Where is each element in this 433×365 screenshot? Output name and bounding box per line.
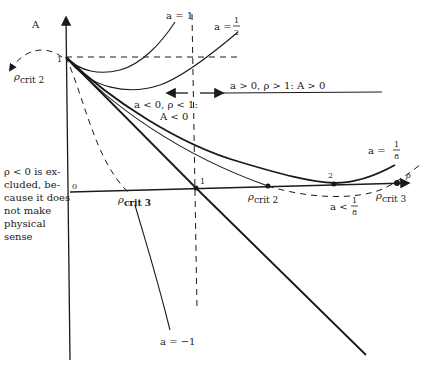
point-rho-crit3	[394, 180, 400, 186]
point-rho-2	[332, 182, 337, 187]
x-tick-2: 2	[328, 171, 333, 180]
side-note: ρ < 0 is ex- cluded, be- cause it does n…	[4, 166, 70, 242]
curve-crit2-dashed-arc	[10, 50, 62, 70]
label-a-eighth-num: 1	[394, 140, 399, 149]
label-rho-crit2-mid: ρcrit 2	[247, 191, 278, 205]
side-note-line: ρ < 0 is ex-	[4, 166, 60, 177]
label-a-half-den: 2	[234, 28, 239, 37]
label-a-half-num: 1	[234, 16, 239, 25]
curve-a-negative-dashed	[66, 57, 128, 192]
curve-a-1	[66, 22, 175, 72]
rho-equals-1-reference-line	[192, 14, 197, 310]
potential-diagram: A 0 ρ 1 1 a = 1 a = 1 2 a = 1 8 a < 1 8 …	[0, 0, 433, 365]
curve-a-eighth	[66, 57, 395, 183]
x-tick-1: 1	[200, 177, 205, 186]
curve-a-neg1	[135, 205, 170, 330]
side-note-line: cause it does	[4, 192, 70, 203]
pos-region-baseline	[222, 92, 382, 93]
side-note-line: sense	[4, 231, 33, 242]
neg-region-label-line1: a < 0, ρ < 1:	[134, 99, 198, 110]
label-a-lt-eighth-prefix: a <	[330, 201, 348, 212]
label-a-lt-eighth-den: 8	[352, 208, 357, 217]
label-rho-crit3-right: ρcrit 3	[375, 190, 407, 204]
side-note-line: not make	[4, 205, 51, 216]
label-a-eighth-den: 8	[394, 152, 399, 161]
label-a-half-prefix: a =	[214, 21, 232, 32]
point-rho-crit2	[266, 184, 271, 189]
neg-region-label-line2: A < 0	[159, 111, 188, 122]
y-axis-label: A	[31, 19, 40, 30]
pos-region-label: a > 0, ρ > 1: A > 0	[230, 80, 325, 91]
label-rho-crit3-left: ρcrit 3	[117, 194, 151, 208]
origin-label: 0	[72, 182, 77, 191]
label-a-1: a = 1	[166, 10, 193, 21]
label-a-eighth-prefix: a =	[368, 145, 386, 156]
side-note-line: cluded, be-	[4, 179, 60, 190]
label-a-neg1: a = −1	[160, 336, 195, 347]
label-rho-crit2-left: ρcrit 2	[13, 71, 44, 85]
point-rho-1	[194, 186, 199, 191]
label-a-lt-eighth-num: 1	[352, 196, 357, 205]
x-axis	[70, 183, 408, 192]
y-axis	[66, 18, 70, 360]
side-note-line: physical	[4, 218, 46, 229]
line-a-0	[66, 57, 366, 355]
